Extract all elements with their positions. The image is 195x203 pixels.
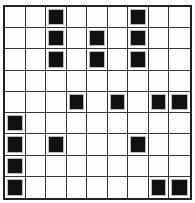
grid-cell-r8-c6[interactable]: [128, 177, 149, 198]
filled-square: [48, 51, 64, 67]
grid-cell-r6-c7[interactable]: [149, 134, 170, 155]
grid-cell-r2-c4[interactable]: [87, 49, 108, 70]
grid-cell-r8-c5[interactable]: [108, 177, 129, 198]
grid-cell-r4-c8[interactable]: [169, 92, 190, 113]
grid-cell-r0-c6[interactable]: [128, 7, 149, 28]
grid-cell-r1-c4[interactable]: [87, 28, 108, 49]
grid-cell-r4-c5[interactable]: [108, 92, 129, 113]
grid-cell-r0-c2[interactable]: [46, 7, 67, 28]
grid-cell-r4-c2[interactable]: [46, 92, 67, 113]
grid-cell-r7-c1[interactable]: [26, 156, 47, 177]
grid-cell-r4-c1[interactable]: [26, 92, 47, 113]
grid-cell-r7-c2[interactable]: [46, 156, 67, 177]
grid-cell-r3-c4[interactable]: [87, 71, 108, 92]
grid-cell-r0-c5[interactable]: [108, 7, 129, 28]
grid-cell-r6-c5[interactable]: [108, 134, 129, 155]
filled-square: [110, 94, 126, 110]
grid-cell-r0-c3[interactable]: [67, 7, 88, 28]
grid-cell-r5-c5[interactable]: [108, 113, 129, 134]
grid-cell-r3-c7[interactable]: [149, 71, 170, 92]
grid-cell-r8-c2[interactable]: [46, 177, 67, 198]
grid-cell-r3-c5[interactable]: [108, 71, 129, 92]
grid-cell-r4-c4[interactable]: [87, 92, 108, 113]
grid-cell-r8-c0[interactable]: [5, 177, 26, 198]
grid-cell-r1-c5[interactable]: [108, 28, 129, 49]
grid-cell-r1-c6[interactable]: [128, 28, 149, 49]
filled-square: [7, 136, 23, 152]
grid-cell-r3-c2[interactable]: [46, 71, 67, 92]
filled-square: [7, 179, 23, 196]
filled-square: [130, 136, 146, 152]
grid-cell-r4-c6[interactable]: [128, 92, 149, 113]
grid-cell-r6-c6[interactable]: [128, 134, 149, 155]
grid-cell-r7-c7[interactable]: [149, 156, 170, 177]
grid-cell-r5-c0[interactable]: [5, 113, 26, 134]
grid-cell-r1-c8[interactable]: [169, 28, 190, 49]
grid-cell-r2-c0[interactable]: [5, 49, 26, 70]
filled-square: [130, 30, 146, 46]
grid-cell-r6-c1[interactable]: [26, 134, 47, 155]
grid-cell-r3-c0[interactable]: [5, 71, 26, 92]
filled-square: [151, 179, 167, 196]
grid-cell-r1-c7[interactable]: [149, 28, 170, 49]
filled-square: [171, 179, 188, 196]
grid-cell-r2-c8[interactable]: [169, 49, 190, 70]
filled-square: [7, 158, 23, 174]
filled-square: [48, 136, 64, 152]
grid-cell-r1-c0[interactable]: [5, 28, 26, 49]
grid-cell-r2-c7[interactable]: [149, 49, 170, 70]
grid-cell-r8-c7[interactable]: [149, 177, 170, 198]
grid-cell-r5-c8[interactable]: [169, 113, 190, 134]
grid-cell-r3-c3[interactable]: [67, 71, 88, 92]
grid-cell-r3-c1[interactable]: [26, 71, 47, 92]
grid-cell-r4-c0[interactable]: [5, 92, 26, 113]
grid-cell-r7-c3[interactable]: [67, 156, 88, 177]
grid-cell-r5-c4[interactable]: [87, 113, 108, 134]
game-grid: [3, 5, 192, 200]
grid-cell-r5-c6[interactable]: [128, 113, 149, 134]
filled-square: [89, 30, 105, 46]
filled-square: [130, 51, 146, 67]
grid-cell-r7-c4[interactable]: [87, 156, 108, 177]
filled-square: [130, 9, 146, 25]
grid-cell-r6-c2[interactable]: [46, 134, 67, 155]
filled-square: [69, 94, 85, 110]
grid-cell-r6-c8[interactable]: [169, 134, 190, 155]
grid-cell-r2-c2[interactable]: [46, 49, 67, 70]
grid-cell-r7-c0[interactable]: [5, 156, 26, 177]
grid-cell-r2-c1[interactable]: [26, 49, 47, 70]
grid-cell-r6-c3[interactable]: [67, 134, 88, 155]
grid-cell-r4-c3[interactable]: [67, 92, 88, 113]
grid-cell-r0-c4[interactable]: [87, 7, 108, 28]
grid-cell-r2-c5[interactable]: [108, 49, 129, 70]
grid-cell-r8-c3[interactable]: [67, 177, 88, 198]
grid-cell-r7-c6[interactable]: [128, 156, 149, 177]
grid-cell-r5-c1[interactable]: [26, 113, 47, 134]
grid-cell-r8-c4[interactable]: [87, 177, 108, 198]
filled-square: [48, 9, 64, 25]
grid-cell-r0-c0[interactable]: [5, 7, 26, 28]
grid-cell-r8-c1[interactable]: [26, 177, 47, 198]
grid-cell-r1-c3[interactable]: [67, 28, 88, 49]
grid-cell-r7-c8[interactable]: [169, 156, 190, 177]
grid-cell-r1-c2[interactable]: [46, 28, 67, 49]
grid-cell-r3-c8[interactable]: [169, 71, 190, 92]
grid-cell-r2-c6[interactable]: [128, 49, 149, 70]
filled-square: [171, 94, 188, 110]
filled-square: [151, 94, 167, 110]
grid-cell-r0-c7[interactable]: [149, 7, 170, 28]
grid-cell-r4-c7[interactable]: [149, 92, 170, 113]
grid-cell-r5-c2[interactable]: [46, 113, 67, 134]
grid-cell-r5-c7[interactable]: [149, 113, 170, 134]
grid-cell-r7-c5[interactable]: [108, 156, 129, 177]
grid-cell-r2-c3[interactable]: [67, 49, 88, 70]
grid-cell-r8-c8[interactable]: [169, 177, 190, 198]
grid-cell-r3-c6[interactable]: [128, 71, 149, 92]
filled-square: [89, 51, 105, 67]
grid-cell-r6-c4[interactable]: [87, 134, 108, 155]
grid-cell-r1-c1[interactable]: [26, 28, 47, 49]
grid-cell-r6-c0[interactable]: [5, 134, 26, 155]
grid-cell-r0-c8[interactable]: [169, 7, 190, 28]
grid-cell-r5-c3[interactable]: [67, 113, 88, 134]
grid-cell-r0-c1[interactable]: [26, 7, 47, 28]
